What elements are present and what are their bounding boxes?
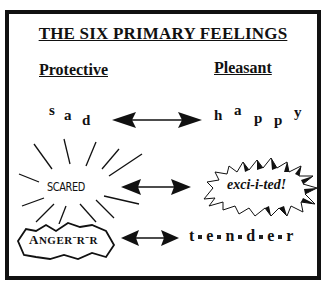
double-arrow-icon [121,229,179,247]
letter: p [274,112,282,129]
dot-separator [217,235,221,239]
letter: d [82,112,90,129]
word-happy: h a p p y [214,102,314,132]
word-excited: exci-i-ted! [227,177,286,193]
double-arrow-icon [112,110,202,130]
letter: p [254,110,262,127]
letter: a [64,107,72,124]
letter: y [294,104,302,121]
letter: h [214,107,222,124]
word-tender: tender [189,227,293,245]
poster-frame: THE SIX PRIMARY FEELINGS Protective Plea… [5,10,321,280]
dot-separator [278,235,282,239]
anger-rest: NGER [39,234,73,246]
letter: d [246,227,255,245]
dot-separator [198,235,202,239]
letter: r [286,227,293,245]
double-arrow-icon [121,178,191,196]
dot-separator [259,235,263,239]
letter: n [225,227,234,245]
word-scared: SCARED [47,179,85,194]
letter: t [189,227,194,245]
letter: e [206,227,213,245]
column-heading-protective: Protective [39,61,108,79]
anger-suffix: ˉRˉR [73,234,98,246]
page-title: THE SIX PRIMARY FEELINGS [9,24,317,44]
word-anger: ANGERˉRˉR [29,232,98,248]
dot-separator [238,235,242,239]
letter: a [234,102,242,119]
column-heading-pleasant: Pleasant [214,59,272,77]
letter: e [267,227,274,245]
letter: s [49,102,55,119]
word-sad: s a d [49,102,109,132]
anger-initial: A [29,232,39,247]
